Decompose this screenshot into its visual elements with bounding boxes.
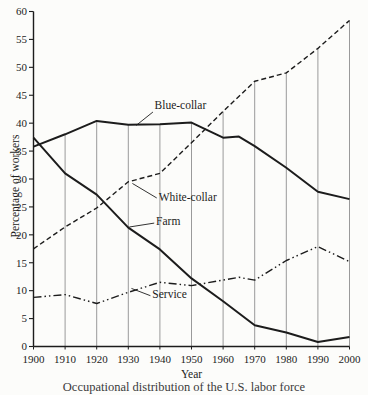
x-tick-label-1950: 1950 (181, 353, 204, 365)
y-tick-label-55: 55 (16, 33, 28, 45)
y-tick-label-60: 60 (16, 5, 28, 17)
y-tick-label-10: 10 (16, 284, 28, 296)
series-label-blue-collar: Blue-collar (155, 99, 207, 111)
x-tick-label-2000: 2000 (339, 353, 362, 365)
x-tick-label-1910: 1910 (54, 353, 77, 365)
leader-line-service (131, 288, 150, 295)
y-tick-label-40: 40 (16, 117, 28, 129)
x-tick-label-1930: 1930 (117, 353, 140, 365)
y-tick-label-15: 15 (16, 257, 28, 269)
figure-caption-clipped: Occupational distribution of the U.S. la… (0, 380, 368, 395)
y-tick-label-0: 0 (22, 340, 28, 352)
y-axis-title: Percentage of workers (9, 135, 21, 238)
y-tick-label-50: 50 (16, 61, 28, 73)
x-axis-title: Year (33, 368, 350, 380)
x-tick-label-1960: 1960 (212, 353, 235, 365)
x-tick-label-1970: 1970 (244, 353, 267, 365)
x-tick-label-1920: 1920 (86, 353, 109, 365)
y-tick-label-5: 5 (22, 312, 28, 324)
leader-line-farm (129, 223, 154, 227)
x-tick-label-1940: 1940 (149, 353, 172, 365)
leader-line-blue-collar (136, 112, 153, 125)
x-tick-label-1980: 1980 (275, 353, 298, 365)
series-label-service: Service (152, 288, 186, 300)
series-label-white-collar: White-collar (159, 191, 217, 203)
y-tick-label-45: 45 (16, 89, 28, 101)
series-label-farm: Farm (156, 215, 180, 227)
x-tick-label-1990: 1990 (307, 353, 330, 365)
leader-line-white-collar (132, 183, 156, 198)
x-tick-label-1900: 1900 (23, 353, 46, 365)
